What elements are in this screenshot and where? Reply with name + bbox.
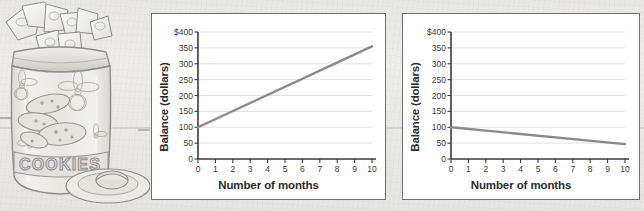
x-tick-label: 7 <box>570 164 575 174</box>
x-tick-label: 5 <box>536 164 541 174</box>
y-tick-label: 200 <box>179 91 193 101</box>
x-tick-label: 10 <box>620 164 629 174</box>
dollar-bills <box>6 2 112 54</box>
data-line <box>451 127 625 144</box>
data-line <box>198 46 372 127</box>
jar-lid <box>12 47 110 72</box>
y-tick-label: 350 <box>179 43 193 53</box>
x-tick-label: 3 <box>501 164 506 174</box>
cookie-jar-illustration: COOKIES <box>0 0 150 211</box>
x-tick-label: 10 <box>367 164 376 174</box>
x-tick-label: 4 <box>518 164 523 174</box>
x-tick-label: 1 <box>466 164 471 174</box>
y-tick-label: 50 <box>184 138 193 148</box>
savings-growth-chart: Balance (dollars) 050100150200250300350$… <box>151 13 386 200</box>
x-tick-label: 9 <box>352 164 357 174</box>
x-tick-label: 0 <box>449 164 454 174</box>
y-tick-label: 100 <box>179 122 193 132</box>
x-tick-label: 6 <box>553 164 558 174</box>
x-tick-label: 9 <box>605 164 610 174</box>
y-tick-label: 250 <box>432 75 446 85</box>
x-tick-label: 1 <box>213 164 218 174</box>
y-tick-label: 0 <box>441 154 446 164</box>
plate-with-cookie <box>66 169 150 203</box>
gridlines <box>451 32 625 143</box>
y-tick-label: 250 <box>179 75 193 85</box>
x-tick-label: 4 <box>265 164 270 174</box>
x-axis-title: Number of months <box>403 179 639 191</box>
y-tick-label: 200 <box>432 91 446 101</box>
y-tick-label: 0 <box>188 154 193 164</box>
worksheet-figure: COOKIES Balance (dollars) 05010015020025… <box>0 0 644 211</box>
y-tick-label: 300 <box>179 59 193 69</box>
x-tick-label: 5 <box>283 164 288 174</box>
x-axis-title: Number of months <box>152 179 385 191</box>
x-tick-label: 8 <box>588 164 593 174</box>
x-tick-label: 8 <box>335 164 340 174</box>
y-tick-label: 150 <box>179 106 193 116</box>
y-tick-label: $400 <box>174 27 193 37</box>
savings-decline-chart: Balance (dollars) 050100150200250300350$… <box>402 13 640 200</box>
x-tick-label: 2 <box>483 164 488 174</box>
x-tick-label: 2 <box>230 164 235 174</box>
y-tick-label: 300 <box>432 59 446 69</box>
y-tick-label: 150 <box>432 106 446 116</box>
x-tick-label: 0 <box>196 164 201 174</box>
y-tick-label: $400 <box>427 27 446 37</box>
y-tick-label: 350 <box>432 43 446 53</box>
y-tick-label: 50 <box>437 138 446 148</box>
y-tick-label: 100 <box>432 122 446 132</box>
x-tick-label: 6 <box>300 164 305 174</box>
x-tick-label: 7 <box>317 164 322 174</box>
x-tick-label: 3 <box>248 164 253 174</box>
